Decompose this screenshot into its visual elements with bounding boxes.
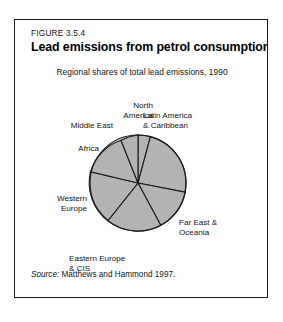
- pie-label-far-east-oceania: Far East & Oceania: [179, 218, 255, 238]
- pie-label-middle-east-text: Middle East: [31, 121, 113, 131]
- pie-label-north-america-line1: North: [69, 101, 153, 111]
- pie-label-far-east-line2: Oceania: [179, 228, 255, 238]
- pie-label-north-america: North America: [69, 101, 153, 121]
- pie-label-western-europe: Western Europe: [27, 194, 87, 214]
- pie-label-africa: Africa: [25, 144, 99, 154]
- pie-label-latin-america-caribbean: Latin America & Caribbean: [143, 111, 229, 131]
- source-note: Source: Matthews and Hammond 1997.: [31, 270, 175, 279]
- source-label: Source:: [31, 270, 59, 279]
- pie-label-western-europe-line2: Europe: [27, 204, 87, 214]
- pie-label-far-east-line1: Far East &: [179, 218, 255, 228]
- pie-label-latin-america-line2: & Caribbean: [143, 121, 229, 131]
- pie-chart: North America Latin America & Caribbean …: [15, 20, 268, 298]
- pie-label-middle-east: Middle East: [31, 121, 113, 131]
- pie-label-africa-text: Africa: [25, 144, 99, 154]
- pie-label-north-america-line2: America: [69, 111, 153, 121]
- pie-label-eastern-europe-line1: Eastern Europe: [69, 254, 153, 264]
- figure-panel: FIGURE 3.5.4 Lead emissions from petrol …: [14, 19, 268, 298]
- pie-label-western-europe-line1: Western: [27, 194, 87, 204]
- pie-label-latin-america-line1: Latin America: [143, 111, 229, 121]
- source-value: Matthews and Hammond 1997.: [59, 270, 175, 279]
